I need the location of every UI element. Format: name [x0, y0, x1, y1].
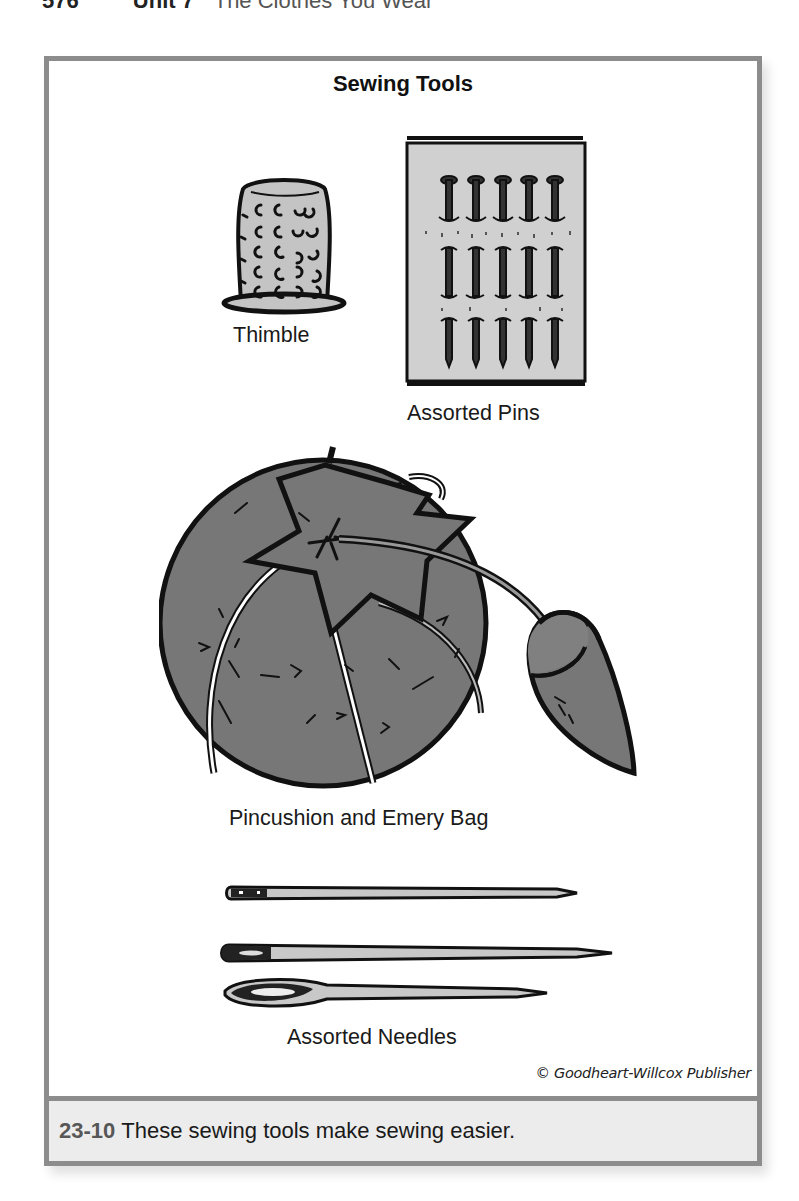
pincushion-icon	[159, 443, 639, 803]
figure-box: Sewing Tools Thimble	[44, 56, 762, 1166]
running-head: 576 Unit 7 The Clothes You Wear	[42, 0, 433, 8]
needles-label: Assorted Needles	[287, 1025, 457, 1050]
page-number: 576	[42, 0, 79, 13]
unit-label: Unit 7	[133, 0, 194, 13]
pins-card-icon	[401, 135, 597, 389]
figure-number: 23-10	[59, 1118, 115, 1143]
figure-title: Sewing Tools	[49, 71, 757, 97]
thimble-label: Thimble	[233, 323, 309, 348]
pincushion-label: Pincushion and Emery Bag	[229, 806, 488, 831]
chapter-title: The Clothes You Wear	[214, 0, 434, 13]
needles-icon	[217, 879, 617, 1009]
caption-bar: 23-10These sewing tools make sewing easi…	[49, 1096, 757, 1161]
thimble-icon	[221, 175, 347, 315]
publisher-credit: © Goodheart-Willcox Publisher	[536, 1065, 752, 1081]
pins-label: Assorted Pins	[407, 401, 540, 426]
figure-caption: 23-10These sewing tools make sewing easi…	[59, 1118, 515, 1144]
caption-text: These sewing tools make sewing easier.	[121, 1118, 515, 1143]
